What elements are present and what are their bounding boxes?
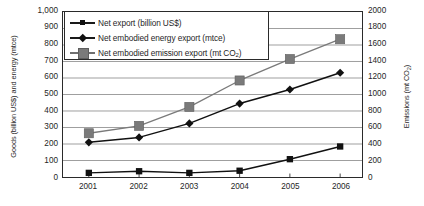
data-point-marker [337, 143, 343, 149]
y-axis-right-tick: 0 [368, 174, 402, 182]
y-axis-left-tick: 600 [24, 73, 58, 81]
data-point-marker [285, 54, 294, 63]
data-point-marker [85, 138, 93, 146]
x-axis-tick: 2003 [166, 183, 212, 191]
y-axis-right-title-prefix: Emissions (mt CO [402, 70, 411, 128]
legend-label-subscript: 2 [236, 52, 239, 58]
data-point-marker [136, 168, 142, 174]
data-point-marker [287, 156, 293, 162]
series-line [89, 73, 340, 143]
legend-label-suffix: ) [239, 48, 242, 58]
data-point-marker [84, 129, 93, 138]
y-axis-left-tick: 800 [24, 40, 58, 48]
y-axis-left-tick: 300 [24, 123, 58, 131]
chart-legend: Net export (billion US$) Net embodied en… [64, 11, 269, 60]
legend-label-net-embodied-energy-export: Net embodied energy export (mtce) [98, 33, 225, 43]
legend-marker-net-embodied-emission-export [70, 47, 95, 58]
data-point-marker [236, 100, 244, 108]
y-axis-left-tick: 500 [24, 90, 58, 98]
y-axis-right-title: Emissions (mt CO2) [402, 22, 411, 172]
y-axis-left-title: Goods (billion US$) and energy (mtce) [9, 22, 18, 172]
y-axis-right-tick: 200 [368, 157, 402, 165]
y-axis-left-tick: 900 [24, 23, 58, 31]
y-axis-left-tick: 100 [24, 157, 58, 165]
data-point-marker [135, 121, 144, 130]
y-axis-left-tick: 400 [24, 107, 58, 115]
legend-marker-net-embodied-energy-export [70, 32, 95, 43]
data-point-marker [286, 85, 294, 93]
y-axis-right-tick: 400 [368, 140, 402, 148]
chart-container: Goods (billion US$) and energy (mtce) Em… [0, 0, 424, 206]
data-point-marker [236, 168, 242, 174]
legend-marker-net-export [70, 17, 95, 28]
y-axis-left-tick: 0 [24, 174, 58, 182]
y-axis-right-tick: 800 [368, 107, 402, 115]
data-point-marker [86, 170, 92, 176]
x-axis-tick: 2006 [318, 183, 364, 191]
y-axis-right-tick: 1400 [368, 57, 402, 65]
legend-item-net-export: Net export (billion US$) [70, 15, 268, 30]
y-axis-right-tick: 1200 [368, 73, 402, 81]
y-axis-right-tick: 600 [368, 123, 402, 131]
y-axis-left-tick: 700 [24, 57, 58, 65]
x-axis-tick: 2005 [267, 183, 313, 191]
legend-label-net-export: Net export (billion US$) [98, 18, 181, 28]
legend-item-net-embodied-emission-export: Net embodied emission export (mt CO2) [70, 45, 268, 60]
y-axis-right-title-subscript: 2 [405, 67, 411, 70]
data-point-marker [336, 35, 345, 44]
y-axis-right-tick: 1800 [368, 23, 402, 31]
y-axis-left-tick: 1,000 [24, 7, 58, 15]
data-point-marker [235, 76, 244, 85]
data-point-marker [185, 119, 193, 127]
legend-label-net-embodied-emission-export: Net embodied emission export (mt CO2) [98, 48, 242, 58]
x-axis-tick: 2004 [217, 183, 263, 191]
data-point-marker [185, 102, 194, 111]
data-point-marker [135, 133, 143, 141]
y-axis-right-tick: 2000 [368, 7, 402, 15]
legend-item-net-embodied-energy-export: Net embodied energy export (mtce) [70, 30, 268, 45]
series-line [89, 146, 340, 172]
x-axis-tick: 2001 [65, 183, 111, 191]
y-axis-right-tick: 1600 [368, 40, 402, 48]
y-axis-left-tick: 200 [24, 140, 58, 148]
data-point-marker [186, 170, 192, 176]
data-point-marker [336, 69, 344, 77]
x-axis-tick: 2002 [116, 183, 162, 191]
y-axis-right-tick: 1000 [368, 90, 402, 98]
legend-label-prefix: Net embodied emission export (mt CO [98, 48, 236, 58]
